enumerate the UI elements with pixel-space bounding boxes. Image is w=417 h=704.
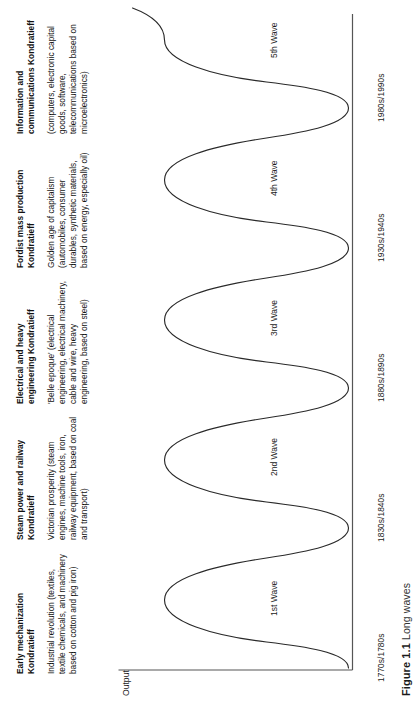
wave-label-1: 1st Wave [268, 581, 278, 616]
figure-caption-label: Figure 1.1 [399, 643, 411, 696]
wave-label-4: 4th Wave [268, 160, 278, 196]
long-waves-plot [0, 0, 417, 704]
figure-rotated-canvas: Early mechanization Kondratieff Industri… [0, 0, 417, 704]
x-tick-label: 1830s/1840s [375, 493, 385, 542]
figure-root: Early mechanization Kondratieff Industri… [0, 0, 417, 704]
x-axis-tick-labels: 1770s/1780s 1830s/1840s 1880s/1890s 1930… [375, 0, 391, 704]
figure-caption-text: Long waves [399, 583, 411, 640]
wave-label-2: 2nd Wave [268, 438, 278, 476]
figure-caption: Figure 1.1Long waves [399, 583, 411, 696]
long-wave-curve [132, 8, 348, 668]
x-tick-label: 1880s/1890s [375, 353, 385, 402]
x-tick-label: 1770s/1780s [375, 633, 385, 682]
wave-label-5: 5th Wave [268, 22, 278, 58]
x-tick-label: 1930s/1940s [375, 213, 385, 262]
wave-label-3: 3rd Wave [268, 300, 278, 336]
x-tick-label: 1980s/1990s [375, 73, 385, 122]
